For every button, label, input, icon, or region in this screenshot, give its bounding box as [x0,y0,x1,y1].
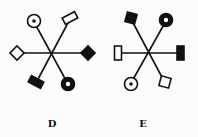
open-diamond-icon [10,46,24,60]
open-rectangle-icon [115,46,122,60]
filled-diamond-icon [81,46,95,60]
diagram-label-e: E [139,118,147,129]
diagram-canvas [0,0,198,137]
arm-line [131,19,164,81]
filled-rectangle-icon [177,46,184,60]
diagram-d [10,12,95,91]
open-rectangle-icon [62,12,78,25]
dot-icon [129,82,133,86]
arm-line [37,21,69,81]
open-square-icon [159,76,171,88]
diagram-e [115,12,185,91]
filled-square-icon [125,12,137,24]
diagram-label-d: D [48,118,57,129]
dot-icon [32,19,36,23]
filled-rectangle-icon [28,76,44,89]
